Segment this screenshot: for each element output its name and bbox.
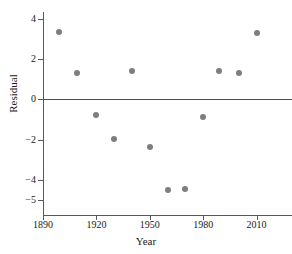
x-tick-label-0: 1890 xyxy=(21,220,65,230)
data-point xyxy=(147,144,153,150)
y-tick-label-3: −2 xyxy=(0,135,36,145)
y-tick-label-2: 0 xyxy=(0,94,36,104)
data-point xyxy=(74,70,80,76)
y-tick-label-0: 4 xyxy=(0,14,36,24)
data-point xyxy=(254,30,260,36)
y-tick-label-4: −4 xyxy=(0,175,36,185)
y-tick-label-1: 2 xyxy=(0,54,36,64)
plot-area xyxy=(43,12,292,215)
x-tick-label-1: 1920 xyxy=(74,220,118,230)
data-point xyxy=(236,70,242,76)
x-axis-title: Year xyxy=(0,236,292,247)
x-tick-label-2: 1950 xyxy=(128,220,172,230)
residual-scatter-chart: Residual 420−2−4−5 18901920195019802010 … xyxy=(0,0,292,254)
data-point xyxy=(165,187,171,193)
data-point xyxy=(56,29,62,35)
y-tick-label-5: −5 xyxy=(0,195,36,205)
x-axis-line xyxy=(43,215,292,216)
x-tick-label-4: 2010 xyxy=(235,220,279,230)
x-tick-label-3: 1980 xyxy=(181,220,225,230)
data-point xyxy=(111,136,117,142)
